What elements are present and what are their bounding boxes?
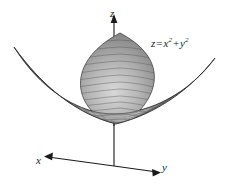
x-axis-label: x: [36, 155, 41, 166]
y-axis-arrowhead: [152, 169, 161, 176]
axis-lines-front: [44, 124, 161, 176]
y-axis-label: y: [162, 162, 167, 173]
surface-equation-label: z=x2+y2: [151, 38, 189, 49]
bowl-left-edge: [14, 47, 92, 111]
y-axis-line: [114, 166, 157, 172]
z-axis-label: z: [110, 8, 114, 19]
equation-plus-sign: +: [172, 37, 180, 49]
x-axis-line: [48, 157, 114, 166]
surface-plot-svg: [0, 0, 232, 189]
equation-equals-sign: =: [155, 37, 163, 49]
x-axis-arrowhead: [44, 153, 53, 161]
paraboloid-figure: z x y z=x2+y2: [0, 0, 232, 189]
equation-term2-exponent: 2: [185, 36, 189, 44]
